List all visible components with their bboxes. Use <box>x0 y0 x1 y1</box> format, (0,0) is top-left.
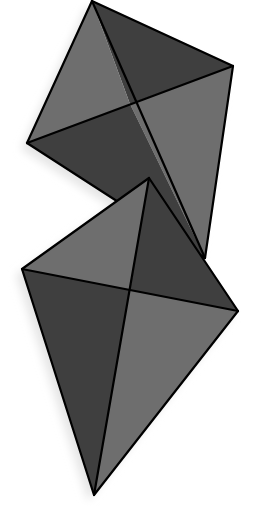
kites-diagram <box>0 0 255 506</box>
